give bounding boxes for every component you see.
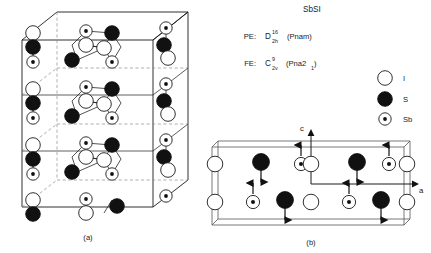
phase-fe-superscript: 9 <box>272 56 275 62</box>
axis-label-a: a <box>419 186 424 195</box>
legend: I S Sb <box>378 71 413 126</box>
atom-s <box>277 192 294 209</box>
phase-fe-row: FE: C 9 2v (Pna2 1 ) <box>244 56 317 71</box>
atom-s <box>349 154 366 171</box>
compound-header: SbSI <box>303 5 321 14</box>
sbsi-crystal-structure-figure: (a) SbSI PE: D 16 2h (Pnam) FE: C 9 2v (… <box>0 0 431 253</box>
atom-s <box>373 192 390 209</box>
atom-i <box>303 156 319 172</box>
atom-i <box>399 194 415 210</box>
phase-pe-space-group: (Pnam) <box>287 32 312 41</box>
legend-item-antimony: Sb <box>379 113 412 125</box>
phase-fe-abbrev: FE: <box>244 59 256 68</box>
panel-a-label: (a) <box>83 233 93 242</box>
filled-circle-icon <box>378 92 393 107</box>
crystal-layer-overhang <box>26 190 173 222</box>
phase-pe-row: PE: D 16 2h (Pnam) <box>244 29 313 44</box>
phase-fe-subscript: 2v <box>272 65 278 71</box>
atom-row-bottom <box>207 183 415 220</box>
phase-fe-point-group: C <box>265 59 271 68</box>
legend-item-iodine: I <box>378 71 405 86</box>
compound-title: SbSI <box>303 5 321 14</box>
panel-a-3d-unit-cell: (a) <box>22 12 188 242</box>
phase-fe-space-group-pre: (Pna2 <box>286 59 306 68</box>
atom-i <box>207 194 223 210</box>
legend-label-sb: Sb <box>403 115 412 124</box>
phase-fe-space-group-post: ) <box>314 59 317 68</box>
open-circle-icon <box>378 71 393 86</box>
atom-s <box>253 154 270 171</box>
panel-b-projection: c a <box>207 124 424 247</box>
phase-pe-superscript: 16 <box>272 29 278 35</box>
atom-i <box>399 156 415 172</box>
phase-pe-abbrev: PE: <box>244 32 256 41</box>
atom-i <box>207 156 223 172</box>
atom-i <box>303 194 319 210</box>
phase-pe-point-group: D <box>265 32 271 41</box>
legend-item-sulfur: S <box>378 92 408 107</box>
axis-label-c: c <box>300 124 304 133</box>
panel-b-label: (b) <box>306 238 316 247</box>
legend-label-s: S <box>403 95 408 104</box>
figure-root: (a) SbSI PE: D 16 2h (Pnam) FE: C 9 2v (… <box>0 0 431 253</box>
legend-label-i: I <box>403 74 405 83</box>
phase-pe-subscript: 2h <box>272 38 278 44</box>
